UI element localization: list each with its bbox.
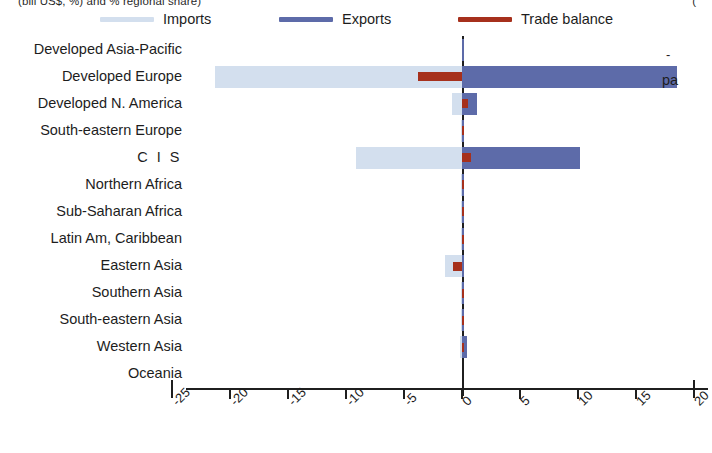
bar-exports[interactable] [462, 66, 677, 88]
legend-trade-balance-swatch-icon [458, 17, 512, 22]
category-label: Developed N. America [0, 96, 182, 111]
category-label: Developed Asia-Pacific [0, 42, 182, 57]
chart-row[interactable] [186, 117, 708, 144]
bar-imports[interactable] [452, 93, 462, 115]
legend-imports-label: Imports [163, 12, 211, 27]
bar-exports[interactable] [462, 39, 464, 61]
category-label: Developed Europe [0, 69, 182, 84]
category-label: Eastern Asia [0, 258, 182, 273]
category-label: South-eastern Asia [0, 312, 182, 327]
category-label: Northern Africa [0, 177, 182, 192]
bar-trade-balance[interactable] [462, 207, 464, 216]
chart-row[interactable] [186, 63, 708, 90]
chart-row[interactable] [186, 334, 708, 361]
bar-trade-balance[interactable] [462, 235, 464, 244]
chart-row[interactable] [186, 90, 708, 117]
chart-row[interactable] [186, 361, 708, 388]
bar-trade-balance[interactable] [453, 262, 462, 271]
chart-row[interactable] [186, 253, 708, 280]
chart-row[interactable] [186, 144, 708, 171]
category-label: Latin Am, Caribbean [0, 231, 182, 246]
caption-fragment-top-right: ( [692, 0, 696, 7]
category-label: South-eastern Europe [0, 123, 182, 138]
legend-exports[interactable]: Exports [279, 12, 391, 27]
chart-row[interactable] [186, 171, 708, 198]
category-label: Southern Asia [0, 285, 182, 300]
caption-fragment-tickmark: - [666, 47, 670, 62]
category-axis-labels: Developed Asia-PacificDeveloped EuropeDe… [0, 36, 182, 388]
bar-trade-balance[interactable] [462, 126, 464, 135]
bar-trade-balance[interactable] [462, 316, 464, 325]
bar-trade-balance[interactable] [418, 72, 462, 81]
axis-tick-label: 0 [459, 393, 475, 409]
legend-imports-swatch-icon [100, 17, 154, 22]
category-label: Western Asia [0, 339, 182, 354]
legend-exports-swatch-icon [279, 17, 333, 22]
legend-imports[interactable]: Imports [100, 12, 211, 27]
legend-trade-balance-label: Trade balance [521, 12, 613, 27]
chart-row[interactable] [186, 36, 708, 63]
legend-exports-label: Exports [342, 12, 391, 27]
chart-row[interactable] [186, 307, 708, 334]
axis-tick-label: 5 [517, 393, 533, 409]
bar-trade-balance[interactable] [462, 153, 471, 162]
bar-trade-balance[interactable] [462, 343, 464, 352]
value-axis-line [186, 388, 708, 390]
caption-fragment-top-left: (bill US$, %) and % regional share) [18, 0, 201, 7]
bar-exports[interactable] [462, 147, 580, 169]
bar-trade-balance[interactable] [462, 180, 464, 189]
legend-trade-balance[interactable]: Trade balance [458, 12, 613, 27]
chart-row[interactable] [186, 198, 708, 225]
chart-legend: ImportsExportsTrade balance [0, 11, 702, 33]
category-label: Oceania [0, 366, 182, 381]
chart-row[interactable] [186, 280, 708, 307]
plot-area [186, 36, 708, 388]
bar-trade-balance[interactable] [462, 99, 468, 108]
caption-fragment-right: pa [662, 72, 678, 88]
bar-trade-balance[interactable] [462, 289, 464, 298]
chart-row[interactable] [186, 226, 708, 253]
bar-imports[interactable] [356, 147, 462, 169]
category-label: C I S [0, 150, 182, 165]
bar-exports[interactable] [462, 255, 464, 277]
category-label: Sub-Saharan Africa [0, 204, 182, 219]
